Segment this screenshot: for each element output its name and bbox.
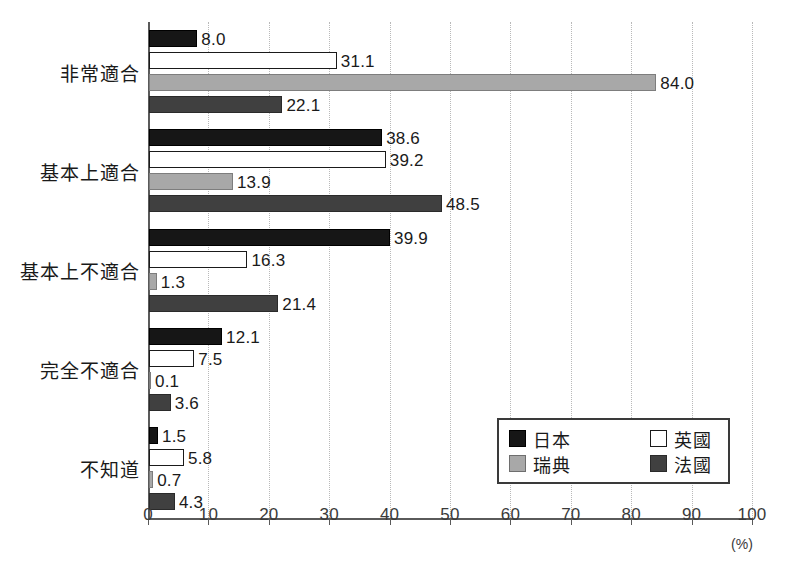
x-axis-tick-label: 20 xyxy=(259,505,278,525)
bar-uk[interactable] xyxy=(149,350,194,367)
legend-swatch-uk xyxy=(650,430,667,447)
gridline xyxy=(390,22,391,518)
bar-uk[interactable] xyxy=(149,52,337,69)
bar-value-label: 1.3 xyxy=(161,274,185,291)
x-axis-tick-label: 80 xyxy=(622,505,641,525)
bar-japan[interactable] xyxy=(149,427,158,444)
bar-value-label: 13.9 xyxy=(237,174,271,191)
bar-value-label: 1.5 xyxy=(162,428,186,445)
bar-france[interactable] xyxy=(149,195,442,212)
legend-swatch-japan xyxy=(509,430,526,447)
bar-value-label: 7.5 xyxy=(198,351,222,368)
bar-chart: 非常適合基本上適合基本上不適合完全不適合不知道 8.031.184.022.13… xyxy=(0,0,792,576)
bar-sweden[interactable] xyxy=(149,173,233,190)
legend-label-sweden: 瑞典 xyxy=(533,451,571,477)
bar-value-label: 22.1 xyxy=(286,97,320,114)
bar-japan[interactable] xyxy=(149,129,382,146)
category-label: 非常適合 xyxy=(0,59,140,86)
bar-value-label: 0.1 xyxy=(155,373,179,390)
x-axis-tick-label: 10 xyxy=(199,505,218,525)
x-axis-tick-label: 50 xyxy=(440,505,459,525)
bar-france[interactable] xyxy=(149,394,171,411)
legend-item-uk[interactable]: 英國 xyxy=(614,426,719,452)
category-label: 基本上不適合 xyxy=(0,257,140,284)
legend-item-japan[interactable]: 日本 xyxy=(509,426,614,452)
bar-france[interactable] xyxy=(149,295,278,312)
bar-value-label: 21.4 xyxy=(282,296,316,313)
bar-france[interactable] xyxy=(149,493,175,510)
bar-france[interactable] xyxy=(149,96,282,113)
legend-label-uk: 英國 xyxy=(674,426,712,452)
bar-value-label: 84.0 xyxy=(660,75,694,92)
bar-sweden[interactable] xyxy=(149,471,153,488)
legend-item-sweden[interactable]: 瑞典 xyxy=(509,451,614,477)
x-axis-tick-label: 60 xyxy=(501,505,520,525)
x-axis-tick-label: 90 xyxy=(682,505,701,525)
x-axis-tick-label: 40 xyxy=(380,505,399,525)
gridline xyxy=(329,22,330,518)
bar-value-label: 31.1 xyxy=(341,53,375,70)
category-label: 不知道 xyxy=(0,455,140,482)
legend-label-japan: 日本 xyxy=(533,426,571,452)
bar-value-label: 5.8 xyxy=(188,450,212,467)
bar-value-label: 3.6 xyxy=(175,395,199,412)
bar-japan[interactable] xyxy=(149,229,390,246)
bar-uk[interactable] xyxy=(149,251,247,268)
bar-value-label: 48.5 xyxy=(446,196,480,213)
bar-value-label: 0.7 xyxy=(157,472,181,489)
bar-japan[interactable] xyxy=(149,30,197,47)
legend-label-france: 法國 xyxy=(674,451,712,477)
legend: 日本 英國 瑞典 法國 xyxy=(497,418,730,484)
bar-sweden[interactable] xyxy=(149,273,157,290)
legend-swatch-sweden xyxy=(509,455,526,472)
legend-swatch-france xyxy=(650,455,667,472)
bar-uk[interactable] xyxy=(149,151,386,168)
bar-value-label: 39.9 xyxy=(394,230,428,247)
bar-value-label: 12.1 xyxy=(226,329,260,346)
x-axis-tick-label: 70 xyxy=(561,505,580,525)
bar-sweden[interactable] xyxy=(149,74,656,91)
gridline xyxy=(450,22,451,518)
bar-value-label: 16.3 xyxy=(251,252,285,269)
x-axis-tick-label: 30 xyxy=(320,505,339,525)
legend-item-france[interactable]: 法國 xyxy=(614,451,719,477)
x-axis-tick-label: 0 xyxy=(143,505,153,525)
bar-value-label: 39.2 xyxy=(390,152,424,169)
bar-value-label: 8.0 xyxy=(201,31,225,48)
category-label: 基本上適合 xyxy=(0,158,140,185)
bar-value-label: 38.6 xyxy=(386,130,420,147)
x-axis-unit-label: (%) xyxy=(731,536,753,552)
bar-uk[interactable] xyxy=(149,449,184,466)
category-label: 完全不適合 xyxy=(0,356,140,383)
bar-japan[interactable] xyxy=(149,328,222,345)
bar-sweden[interactable] xyxy=(149,372,151,389)
x-axis-tick-label: 100 xyxy=(738,505,767,525)
gridline xyxy=(752,22,753,518)
